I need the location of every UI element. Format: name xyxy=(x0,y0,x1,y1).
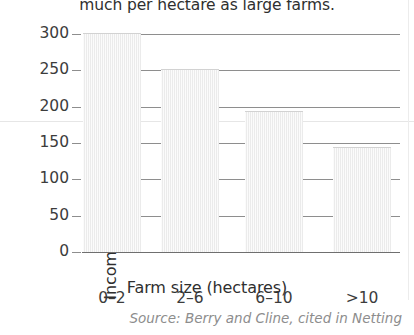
y-tick-label-150: 150 xyxy=(23,135,69,151)
y-tick-150 xyxy=(72,143,81,144)
y-tick-0 xyxy=(72,252,81,253)
y-tick-label-0: 0 xyxy=(23,244,69,260)
bar-1 xyxy=(83,33,141,252)
plot-area: Income per hectare (rupees) 050100150200… xyxy=(83,34,400,252)
y-tick-label-250: 250 xyxy=(23,63,69,79)
bar-3 xyxy=(245,111,303,252)
caption-top-clipped: much per hectare as large farms. xyxy=(0,0,414,14)
y-tick-label-300: 300 xyxy=(23,26,69,42)
y-tick-label-50: 50 xyxy=(23,208,69,224)
y-tick-50 xyxy=(72,216,81,217)
x-axis-title: Farm size (hectares) xyxy=(0,278,414,297)
bar-4 xyxy=(333,147,391,252)
y-tick-label-200: 200 xyxy=(23,99,69,115)
y-tick-300 xyxy=(72,34,81,35)
y-tick-label-100: 100 xyxy=(23,172,69,188)
page-edge-line xyxy=(408,0,409,300)
y-tick-250 xyxy=(72,70,81,71)
figure-container: much per hectare as large farms. Income … xyxy=(0,0,414,335)
source-note: Source: Berry and Cline, cited in Nettin… xyxy=(129,310,402,326)
y-tick-200 xyxy=(72,107,81,108)
bar-2 xyxy=(161,69,219,252)
gridline-0 xyxy=(82,252,400,253)
y-tick-100 xyxy=(72,179,81,180)
